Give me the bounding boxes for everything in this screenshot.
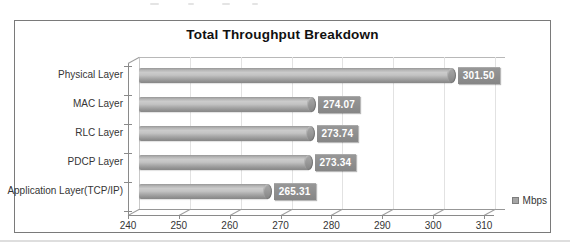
bar-end-cap [447,68,456,83]
category-axis-line [128,63,129,215]
category-axis-tick [124,211,132,212]
category-axis-tick [124,95,132,96]
chart-frame: Total Throughput Breakdown 301.50274.072… [14,20,551,233]
value-axis-ticklabel-250: 250 [159,220,199,231]
bar-end-cap [307,97,316,112]
bar-application-layer-tcp-ip- [139,184,268,199]
category-label: RLC Layer [75,127,123,139]
bar-end-cap [306,126,315,141]
category-label: Physical Layer [58,69,123,81]
plot-wall-bottom-edge [139,209,505,210]
value-axis-ticklabel-310: 310 [464,220,504,231]
value-axis-ticklabel-280: 280 [311,220,351,231]
category-axis-tick [124,182,132,183]
legend: Mbps [512,193,547,207]
cropped-text-artifact [222,3,230,5]
cropped-text-artifact [252,3,258,5]
value-axis-ticklabel-240: 240 [108,220,148,231]
value-axis-tick-280 [331,215,332,219]
category-label: PDCP Layer [68,156,123,168]
category-axis-tick [124,153,132,154]
cropped-text-artifact [188,3,194,5]
category-label: MAC Layer [73,98,123,110]
value-label: 273.34 [315,154,357,171]
bar-mac-layer [139,97,312,112]
value-axis-line [128,215,494,216]
value-label: 273.74 [317,125,359,142]
plot-wall: 301.50274.07273.74273.34265.31 [139,57,505,209]
bar-end-cap [263,184,272,199]
value-axis-tick-240 [128,215,129,219]
category-axis-tick [124,124,132,125]
value-axis-tick-270 [281,215,282,219]
value-axis-tick-300 [433,215,434,219]
value-label: 274.07 [318,96,360,113]
legend-swatch-mbps [512,197,519,204]
bar-physical-layer [139,68,452,83]
value-axis-tick-260 [230,215,231,219]
value-label: 301.50 [458,67,500,84]
value-axis-tick-310 [484,215,485,219]
cropped-text-artifact [150,3,159,5]
bar-rlc-layer [139,126,311,141]
axis-3d-corner [128,57,140,64]
page: Total Throughput Breakdown 301.50274.072… [0,0,570,243]
value-axis-ticklabel-300: 300 [413,220,453,231]
bar-end-cap [304,155,313,170]
category-label: Application Layer(TCP/IP) [7,185,123,197]
value-axis-ticklabel-290: 290 [362,220,402,231]
value-label: 265.31 [274,183,316,200]
cropped-text-artifact [0,240,570,242]
legend-label: Mbps [523,195,547,206]
value-axis-tick-250 [179,215,180,219]
category-axis-tick [124,66,132,67]
value-axis-ticklabel-260: 260 [210,220,250,231]
value-axis-tick-290 [382,215,383,219]
chart-title: Total Throughput Breakdown [15,27,550,42]
value-axis-ticklabel-270: 270 [261,220,301,231]
bar-pdcp-layer [139,155,309,170]
